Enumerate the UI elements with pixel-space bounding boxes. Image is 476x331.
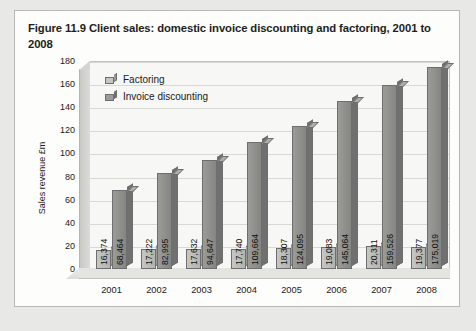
x-axis-tick-label: 2003 (191, 285, 212, 295)
y-axis-tick-label: 140 (51, 102, 75, 112)
chart-plot: Sales revenue £m 02040608010012014016018… (41, 61, 453, 301)
legend-swatch-icon (105, 92, 116, 101)
x-axis-tick-label: 2006 (326, 285, 347, 295)
bar-value-label: 16,374 (99, 239, 109, 265)
y-axis-ticks: 020406080100120140160180 (51, 61, 75, 269)
bar-value-label: 17,740 (234, 239, 244, 265)
y-axis-tick-label: 120 (51, 125, 75, 135)
bar-value-label: 17,632 (189, 239, 199, 265)
bar-side (217, 153, 223, 266)
legend-label: Factoring (123, 74, 165, 85)
bar-value-label: 94,647 (205, 239, 215, 265)
bar-side (127, 183, 133, 266)
x-axis-tick-label: 2004 (236, 285, 257, 295)
bar-value-label: 19,377 (414, 239, 424, 265)
figure-title: Figure 11.9 Client sales: domestic invoi… (28, 21, 448, 52)
bar-value-label: 145,064 (340, 234, 350, 265)
bar-side (352, 95, 358, 266)
bar-invoice-discounting-2005: 124,095 (292, 126, 307, 269)
bar-factoring-2006: 19,083 (321, 247, 336, 269)
y-axis-tick-label: 20 (51, 241, 75, 251)
bar-invoice-discounting-2001: 68,464 (112, 190, 127, 269)
bar-value-label: 82,995 (160, 239, 170, 265)
bar-invoice-discounting-2004: 109,664 (247, 142, 262, 269)
x-axis-labels: 20012002200320042005200620072008 (90, 285, 456, 301)
chart-legend: Factoring Invoice discounting (105, 73, 208, 107)
figure-box: Figure 11.9 Client sales: domestic invoi… (14, 10, 460, 307)
bar-value-label: 159,526 (385, 234, 395, 265)
y-axis-tick-label: 40 (51, 218, 75, 228)
bar-side (262, 136, 268, 266)
y-axis-tick-label: 0 (51, 264, 75, 274)
y-axis-tick-label: 100 (51, 148, 75, 158)
x-axis-tick-label: 2007 (371, 285, 392, 295)
bar-value-label: 124,095 (295, 234, 305, 265)
bar-value-label: 20,311 (369, 239, 379, 265)
bar-factoring-2001: 16,374 (96, 250, 111, 269)
y-axis-tick-label: 80 (51, 172, 75, 182)
y-axis-tick-label: 160 (51, 79, 75, 89)
bar-side (397, 78, 403, 266)
plot-floor (79, 268, 450, 279)
bar-value-label: 19,083 (324, 239, 334, 265)
bar-factoring-2005: 18,307 (276, 248, 291, 269)
bar-invoice-discounting-2003: 94,647 (202, 160, 217, 269)
bar-factoring-2002: 17,222 (141, 249, 156, 269)
x-axis-tick-label: 2008 (416, 285, 437, 295)
bar-factoring-2004: 17,740 (231, 249, 246, 269)
bar-value-label: 18,307 (279, 239, 289, 265)
legend-label: Invoice discounting (123, 91, 208, 102)
x-axis-tick-label: 2005 (281, 285, 302, 295)
x-axis-tick-label: 2002 (146, 285, 167, 295)
bar-factoring-2008: 19,377 (411, 247, 426, 269)
bar-invoice-discounting-2002: 82,995 (157, 173, 172, 269)
bar-value-label: 17,222 (144, 239, 154, 265)
bar-invoice-discounting-2006: 145,064 (337, 101, 352, 269)
bar-factoring-2007: 20,311 (366, 246, 381, 269)
bar-side (307, 119, 313, 266)
x-axis-tick-label: 2001 (101, 285, 122, 295)
y-axis-title: Sales revenue £m (37, 123, 49, 233)
y-axis-tick-label: 60 (51, 195, 75, 205)
legend-item-factoring[interactable]: Factoring (105, 73, 208, 85)
bar-value-label: 68,464 (115, 239, 125, 265)
legend-swatch-icon (105, 75, 116, 84)
y-axis-tick-label: 180 (51, 56, 75, 66)
bar-side (172, 167, 178, 266)
bar-value-label: 175,019 (430, 234, 440, 265)
bar-factoring-2003: 17,632 (186, 249, 201, 269)
bar-invoice-discounting-2008: 175,019 (427, 67, 442, 269)
bar-value-label: 109,664 (250, 234, 260, 265)
bar-invoice-discounting-2007: 159,526 (382, 85, 397, 269)
bar-side (442, 60, 448, 266)
legend-item-invoice-discounting[interactable]: Invoice discounting (105, 90, 208, 102)
